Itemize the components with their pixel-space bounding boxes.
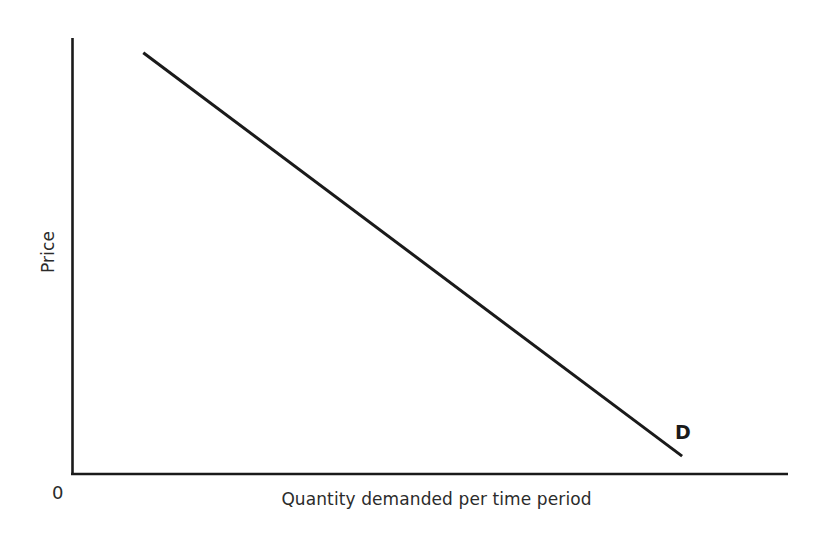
y-axis-title: Price: [38, 231, 58, 273]
demand-curve-figure: Price Quantity demanded per time period …: [0, 0, 825, 534]
plot-canvas: [0, 0, 825, 534]
x-axis-title: Quantity demanded per time period: [0, 489, 825, 509]
origin-label: 0: [52, 482, 64, 503]
demand-curve-label: D: [675, 421, 691, 443]
demand-curve-line: [143, 53, 682, 456]
